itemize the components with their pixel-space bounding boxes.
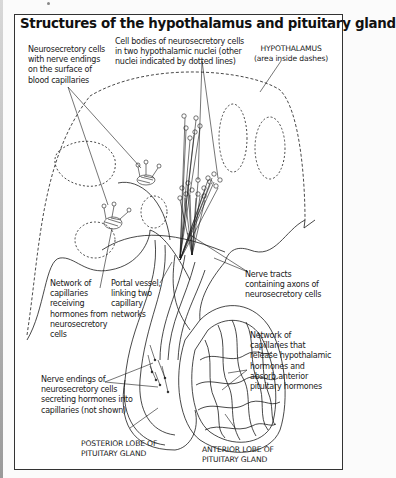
label-posterior-lobe: POSTERIOR LOBE OF PITUITARY GLAND bbox=[81, 439, 157, 459]
nucleus-outline-5 bbox=[75, 222, 115, 258]
nucleus-outline-2 bbox=[219, 104, 247, 172]
label-nerve-endings: Nerve endings of neurosecretory cells se… bbox=[41, 375, 133, 416]
nucleus-outline-3 bbox=[255, 117, 285, 179]
label-network-release: Network of capillaries that release hypo… bbox=[250, 331, 331, 392]
nucleus-outline-4 bbox=[141, 196, 167, 228]
label-portal-vessel: Portal vessel, linking two capillary net… bbox=[111, 279, 161, 320]
label-hypothalamus: HYPOTHALAMUS (area inside dashes) bbox=[254, 44, 328, 64]
label-anterior-lobe: ANTERIOR LOBE OF PITUITARY GLAND bbox=[202, 445, 274, 465]
label-nerve-tracts: Nerve tracts containing axons of neurose… bbox=[245, 270, 321, 301]
posterior-nerve-endings bbox=[148, 345, 169, 393]
label-cell-bodies: Cell bodies of neurosecretory cells in t… bbox=[115, 37, 244, 68]
capillary-knot-upper bbox=[136, 160, 161, 185]
nucleus-outline-1 bbox=[55, 141, 115, 186]
label-network-receiving: Network of capillaries receiving hormone… bbox=[50, 279, 108, 340]
label-neurosecretory-cells: Neurosecretory cells with nerve endings … bbox=[28, 45, 105, 86]
